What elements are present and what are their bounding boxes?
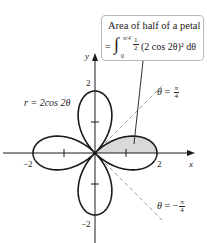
equals-sign: = — [164, 200, 170, 211]
fraction: π4 — [179, 199, 185, 214]
fraction: π4 — [174, 85, 180, 100]
integral-sign: ∫ — [114, 35, 119, 53]
integral-lower-limit: 0 — [121, 53, 124, 59]
integrand: (2 cos 2θ)² dθ — [141, 41, 196, 52]
area-callout-box: Area of half of a petal = ∫ π/4 0 12 (2 … — [101, 15, 204, 61]
curve-equation-label: r = 2cos 2θ — [24, 98, 70, 108]
theta-symbol: θ — [157, 200, 162, 211]
one-half-fraction: 12 — [133, 37, 139, 52]
theta-symbol: θ — [157, 86, 162, 97]
ray-label-neg-pi-over-4: θ = −π4 — [157, 199, 186, 214]
y-axis-label: y — [85, 52, 89, 61]
y-tick-label-positive: 2 — [86, 79, 91, 88]
y-axis-arrowhead — [92, 53, 98, 61]
origin-point — [93, 151, 97, 155]
formula-equals: = — [105, 41, 111, 52]
y-tick-label-negative: −2 — [81, 220, 91, 229]
callout-leader-line — [134, 61, 143, 144]
callout-title: Area of half of a petal — [108, 20, 200, 31]
x-tick-label-negative: −2 — [23, 160, 33, 169]
x-axis-label: x — [189, 160, 193, 169]
sign: − — [173, 200, 179, 211]
area-integral-formula: = ∫ π/4 0 12 (2 cos 2θ)² dθ — [105, 35, 203, 59]
x-tick-label-positive: 2 — [157, 160, 162, 169]
integral-upper-limit: π/4 — [123, 35, 131, 41]
ray-label-pi-over-4: θ = π4 — [157, 85, 180, 100]
equals-sign: = — [164, 86, 170, 97]
x-axis-arrowhead — [187, 150, 195, 156]
